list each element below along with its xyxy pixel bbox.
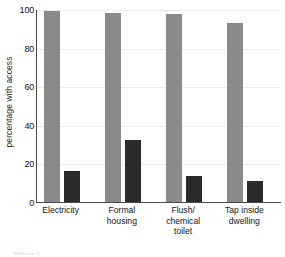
y-axis-tick-label: 20 [24,159,34,169]
y-axis-tick-label: 60 [24,82,34,92]
x-axis-category-label-line: toilet [143,226,223,237]
bar [44,11,60,202]
bar [125,140,141,202]
bar [247,181,263,202]
bar-group [166,10,202,202]
y-axis-tick-labels: 020406080100 [14,0,34,203]
bar [105,13,121,202]
bar-group [44,10,80,202]
bar-group [227,10,263,202]
bar [227,23,243,202]
x-axis-category-label-line: dwelling [204,216,284,227]
x-axis-category-label: Tap insidedwelling [204,205,284,226]
bars-layer [37,10,281,202]
plot-area [36,10,281,203]
y-axis-tick-label: 100 [20,5,34,15]
bar-chart: percentage with access 020406080100 Elec… [0,0,285,257]
bar [166,14,182,202]
x-axis-category-label-line: Tap inside [204,205,284,216]
x-axis-category-labels: ElectricityFormalhousingFlush/chemicalto… [36,205,281,247]
bar-group [105,10,141,202]
y-axis-tick-label: 80 [24,44,34,54]
caption-sliver: Figure 1 [14,250,272,255]
y-axis-title-text: percentage with access [4,56,14,147]
y-axis-tick-label: 40 [24,121,34,131]
bar [64,171,80,202]
bar [186,176,202,202]
